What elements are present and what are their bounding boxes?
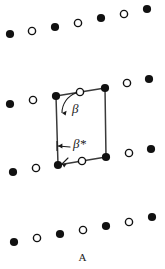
row-2 bbox=[6, 75, 153, 108]
row-4 bbox=[10, 213, 156, 246]
open-circle bbox=[79, 226, 86, 233]
open-circle bbox=[123, 79, 130, 86]
open-circle bbox=[33, 234, 40, 241]
filled-circle bbox=[102, 222, 110, 230]
open-circle bbox=[120, 10, 127, 17]
lattice-diagram-canvas: ββ* bbox=[0, 0, 165, 269]
open-circle bbox=[125, 218, 132, 225]
lattice-point-rows bbox=[6, 5, 156, 246]
angle-annotations: ββ* bbox=[57, 93, 86, 167]
filled-circle bbox=[148, 213, 156, 221]
filled-circle bbox=[143, 5, 151, 13]
open-circle bbox=[32, 164, 39, 171]
filled-circle bbox=[145, 75, 153, 83]
open-circle bbox=[125, 149, 132, 156]
filled-circle bbox=[52, 92, 60, 100]
beta-star-arrowhead bbox=[58, 144, 62, 149]
crystal-lattice-figure: ββ* A bbox=[0, 0, 165, 269]
beta-arrowhead bbox=[62, 111, 67, 116]
figure-label: A bbox=[0, 251, 165, 263]
filled-circle bbox=[51, 23, 59, 31]
filled-circle bbox=[10, 238, 18, 246]
filled-circle bbox=[56, 230, 64, 238]
beta-star-corner-arrowhead bbox=[62, 163, 67, 167]
unit-cell-parallelogram bbox=[56, 88, 106, 165]
beta-star-label: β* bbox=[72, 136, 86, 151]
open-circle bbox=[76, 88, 83, 95]
right-edge bbox=[105, 88, 106, 157]
beta-label: β bbox=[71, 101, 79, 116]
left-edge bbox=[56, 96, 58, 165]
filled-circle bbox=[147, 145, 155, 153]
filled-circle bbox=[97, 14, 105, 22]
filled-circle bbox=[102, 153, 110, 161]
open-circle bbox=[29, 96, 36, 103]
filled-circle bbox=[54, 161, 62, 169]
filled-circle bbox=[9, 168, 17, 176]
filled-circle bbox=[6, 100, 14, 108]
filled-circle bbox=[101, 84, 109, 92]
row-1 bbox=[6, 5, 151, 38]
open-circle bbox=[74, 19, 81, 26]
filled-circle bbox=[6, 30, 14, 38]
open-circle bbox=[28, 27, 35, 34]
open-circle bbox=[78, 157, 85, 164]
